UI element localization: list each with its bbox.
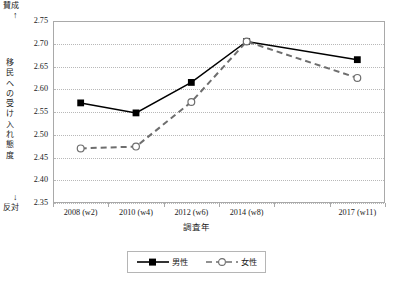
x-axis-tick-mark <box>108 203 109 207</box>
data-point-marker-circle <box>133 143 140 150</box>
x-axis-tick-label: 2012 (w6) <box>174 208 208 218</box>
x-axis-tick-mark <box>330 203 331 207</box>
legend-symbol-solid-square <box>136 257 170 267</box>
y-axis-tick-label: 2.45 <box>22 154 48 162</box>
x-axis-tick-mark <box>385 203 386 207</box>
legend-label-male: 男性 <box>172 258 188 267</box>
x-axis-tick-label: 2008 (w2) <box>64 208 98 218</box>
x-axis-tick-mark <box>53 203 54 207</box>
y-axis-tick-label: 2.55 <box>22 108 48 116</box>
legend-label-female: 女性 <box>241 258 257 267</box>
x-axis-tick-mark <box>164 203 165 207</box>
x-axis-tick-label: 2014 (w8) <box>230 208 264 218</box>
y-axis-tick-label: 2.50 <box>22 131 48 139</box>
y-axis-tick-label: 2.60 <box>22 85 48 93</box>
series-group <box>77 38 360 152</box>
legend-item-female[interactable]: 女性 <box>205 257 257 267</box>
y-axis-tick-label: 2.35 <box>22 199 48 207</box>
x-axis-tick-mark <box>219 203 220 207</box>
data-point-marker-circle <box>77 145 84 152</box>
y-axis-tick-label: 2.40 <box>22 176 48 184</box>
y-axis-bottom-anchor-label: 反対 <box>3 203 19 212</box>
y-axis-tick-label: 2.70 <box>22 40 48 48</box>
y-axis-tick-label: 2.75 <box>22 17 48 25</box>
y-axis-top-anchor-label: 賛成 <box>3 1 19 10</box>
series-layer <box>53 21 385 203</box>
x-axis-tick-mark <box>274 203 275 207</box>
chart-legend[interactable]: 男性 女性 <box>127 251 266 273</box>
y-axis-tick-label: 2.65 <box>22 63 48 71</box>
data-point-marker-square <box>354 56 361 63</box>
data-point-marker-square <box>133 110 140 117</box>
legend-symbol-open-circle <box>205 257 239 267</box>
data-point-marker-square <box>188 79 195 86</box>
x-axis-tick-label: 2017 (w11) <box>338 208 376 218</box>
y-axis-up-arrow-icon: ↑ <box>13 11 18 20</box>
y-axis-down-arrow-icon: ↓ <box>13 193 18 202</box>
data-point-marker-circle <box>188 99 195 106</box>
data-point-marker-square <box>77 100 84 107</box>
x-axis-tick-label: 2010 (w4) <box>119 208 153 218</box>
legend-item-male[interactable]: 男性 <box>136 257 188 267</box>
data-point-marker-circle <box>243 38 250 45</box>
y-axis-title: 移民への受け入れ態度 <box>4 58 15 161</box>
data-point-marker-circle <box>354 74 361 81</box>
x-axis-title: 調査年 <box>0 220 393 232</box>
series-line <box>81 41 358 112</box>
series-line <box>81 41 358 148</box>
immigration-attitude-line-chart: 賛成 ↑ 移民への受け入れ態度 ↓ 反対 2.752.702.652.602.5… <box>0 0 393 282</box>
